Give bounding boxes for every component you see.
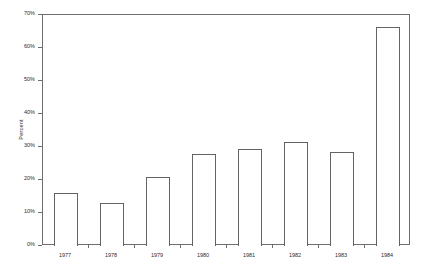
x-axis-tick-label: 1978 bbox=[91, 252, 131, 258]
x-axis-tick-label: 1979 bbox=[137, 252, 177, 258]
x-axis-tick-label: 1980 bbox=[183, 252, 223, 258]
y-axis-tick-label: 60% bbox=[24, 43, 35, 49]
x-axis-tick-label: 1981 bbox=[229, 252, 269, 258]
bar bbox=[146, 177, 170, 246]
y-axis-tick-label: 20% bbox=[24, 175, 35, 181]
x-axis-tick-mark bbox=[226, 245, 227, 248]
x-axis-tick-label: 1982 bbox=[275, 252, 315, 258]
y-axis-tick-label: 70% bbox=[24, 10, 35, 16]
x-axis-tick-label: 1984 bbox=[367, 252, 407, 258]
x-axis-tick-mark bbox=[318, 245, 319, 248]
bar bbox=[330, 152, 354, 246]
bar bbox=[376, 27, 400, 246]
y-axis-tick-label: 40% bbox=[24, 109, 35, 115]
bar bbox=[284, 142, 308, 246]
x-axis-tick-mark bbox=[364, 245, 365, 248]
x-axis-tick-label: 1977 bbox=[45, 252, 85, 258]
x-axis-tick-mark bbox=[272, 245, 273, 248]
bar bbox=[54, 193, 78, 246]
bar-chart: Percent 0%10%20%30%40%50%60%70% 19771978… bbox=[0, 0, 424, 276]
bar bbox=[238, 149, 262, 246]
x-axis-tick-mark bbox=[134, 245, 135, 248]
y-axis-tick-label: 10% bbox=[24, 208, 35, 214]
x-axis-tick-mark bbox=[180, 245, 181, 248]
plot-area bbox=[42, 14, 410, 245]
x-axis-tick-label: 1983 bbox=[321, 252, 361, 258]
y-axis-tick-label: 0% bbox=[27, 241, 35, 247]
y-axis-tick-label: 30% bbox=[24, 142, 35, 148]
bar bbox=[100, 203, 124, 246]
x-axis-tick-mark bbox=[88, 245, 89, 248]
bar bbox=[192, 154, 216, 246]
y-axis-tick-mark bbox=[38, 245, 42, 246]
y-axis-tick-label: 50% bbox=[24, 76, 35, 82]
